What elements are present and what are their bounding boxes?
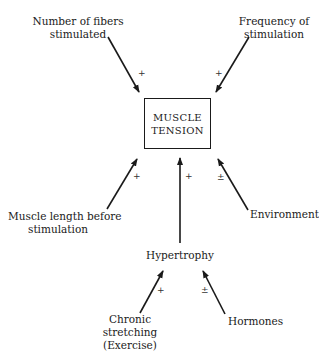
frequency-line2: stimulation <box>232 28 316 41</box>
muscle-tension-box: MUSCLE TENSION <box>144 98 211 149</box>
center-line2: TENSION <box>151 124 204 137</box>
sign-frequency: + <box>215 69 223 78</box>
fibers-line2: stimulated <box>28 28 128 41</box>
stretching-line3: (Exercise) <box>95 339 165 352</box>
length-line1: Muscle length before <box>8 210 108 223</box>
sign-length: + <box>133 172 141 181</box>
stretching-line2: stretching <box>95 326 165 339</box>
label-frequency: Frequency of stimulation <box>232 15 316 40</box>
arrow-environment <box>218 159 248 210</box>
frequency-line1: Frequency of <box>232 15 316 28</box>
sign-hormones: ± <box>201 286 209 295</box>
sign-hypertrophy: + <box>185 172 193 181</box>
label-stretching: Chronic stretching (Exercise) <box>95 313 165 352</box>
stretching-line1: Chronic <box>95 313 165 326</box>
arrow-frequency <box>216 37 249 92</box>
label-hypertrophy: Hypertrophy <box>130 249 230 262</box>
label-fibers: Number of fibers stimulated <box>28 15 128 40</box>
label-hormones: Hormones <box>228 315 283 328</box>
arrows-layer <box>0 0 319 358</box>
arrow-length <box>107 159 137 209</box>
sign-fibers: + <box>138 69 146 78</box>
length-line2: stimulation <box>8 223 108 236</box>
sign-environment: ± <box>217 173 225 182</box>
arrow-fibers <box>108 37 139 92</box>
center-line1: MUSCLE <box>153 111 202 124</box>
sign-stretching: + <box>157 286 165 295</box>
label-environment: Environment <box>250 208 319 221</box>
fibers-line1: Number of fibers <box>28 15 128 28</box>
label-length: Muscle length before stimulation <box>8 210 108 235</box>
